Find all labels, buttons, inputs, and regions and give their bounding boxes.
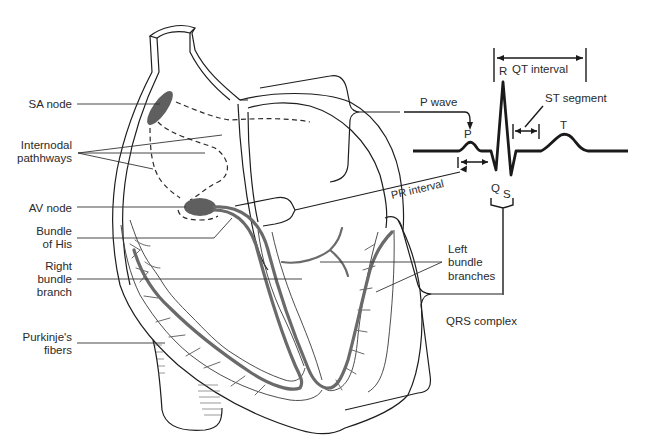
- label-right-bundle: Right: [45, 260, 73, 272]
- label-left-bundle-3: branches: [448, 270, 496, 282]
- sa-node: [143, 88, 177, 129]
- internodal-pathways: [150, 102, 310, 220]
- label-qrs-complex: QRS complex: [446, 315, 517, 327]
- label-purkinje-2: fibers: [44, 344, 72, 356]
- ecg-label-st-segment: ST segment: [545, 92, 608, 104]
- conduction-diagram: SA node Internodal pathhways AV node Bun…: [0, 0, 645, 446]
- label-internodal: Internodal: [21, 139, 72, 151]
- left-labels: SA node Internodal pathhways AV node Bun…: [17, 98, 73, 356]
- ecg-label-s: S: [503, 188, 511, 200]
- label-left-bundle-2: bundle: [448, 256, 483, 268]
- label-right-bundle-3: branch: [37, 286, 72, 298]
- bundle-branches: [134, 207, 392, 389]
- label-p-wave: P wave: [420, 96, 458, 108]
- ecg-trace: [404, 48, 628, 295]
- label-bundle-his: Bundle: [36, 225, 72, 237]
- av-node: [184, 198, 216, 216]
- label-purkinje: Purkinje's: [23, 331, 73, 343]
- label-right-bundle-2: bundle: [37, 273, 72, 285]
- label-bundle-his-2: of His: [43, 238, 73, 250]
- label-av-node: AV node: [29, 202, 72, 214]
- label-pr-interval: PR interval: [390, 177, 445, 201]
- ecg-label-p: P: [464, 128, 472, 140]
- label-sa-node: SA node: [29, 98, 72, 110]
- label-internodal-2: pathhways: [17, 152, 72, 164]
- label-left-bundle: Left: [448, 243, 468, 255]
- ecg-label-r: R: [499, 65, 507, 77]
- ecg-label-t: T: [560, 119, 567, 131]
- ecg-label-q: Q: [491, 182, 500, 194]
- ecg-label-qt-interval: QT interval: [512, 63, 568, 75]
